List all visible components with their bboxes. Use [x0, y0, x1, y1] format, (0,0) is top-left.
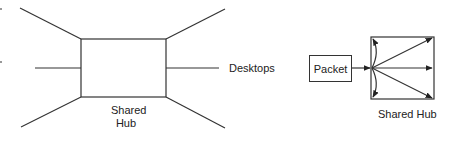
link-bottom-right	[166, 97, 225, 128]
packet-label: Packet	[314, 63, 348, 75]
broadcast-arrow-bottom	[372, 68, 432, 98]
link-bottom-left	[21, 97, 81, 127]
hub-label-line1: Shared	[111, 104, 141, 117]
right-hub-label: Shared Hub	[378, 108, 437, 121]
hub-label-line2: Hub	[111, 117, 141, 130]
shared-hub-box	[81, 39, 166, 97]
curved-arrow-down	[372, 68, 376, 97]
packet-box: Packet	[309, 55, 352, 82]
desktops-label: Desktops	[229, 62, 275, 75]
right-hub-diagram	[352, 37, 434, 99]
link-top-right	[166, 9, 225, 39]
curved-arrow-up	[372, 39, 376, 68]
broadcast-arrow-top	[372, 38, 432, 68]
left-hub-label: Shared Hub	[111, 104, 141, 130]
link-top-left	[20, 8, 81, 39]
